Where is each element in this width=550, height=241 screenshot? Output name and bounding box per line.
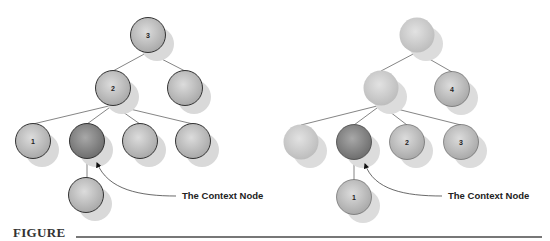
right-callout-arrow-icon — [365, 164, 442, 196]
left-node-level4-a — [69, 178, 104, 213]
left-node-level3-c — [123, 124, 158, 159]
figure-rule-divider — [76, 236, 542, 238]
node-label: 2 — [405, 139, 409, 146]
left-node-level3-a: 1 — [16, 124, 51, 159]
left-node-level3-d — [176, 124, 211, 159]
node-label: 4 — [450, 86, 454, 93]
left-context-node — [70, 124, 105, 159]
context-node-diagrams: 3 2 1 The Conte — [0, 0, 550, 241]
left-callout-label: The Context Node — [182, 190, 263, 201]
right-node-level3-a — [284, 125, 319, 160]
node-label: 1 — [31, 138, 35, 145]
right-node-level2-b: 4 — [435, 72, 470, 107]
right-node-level4-a: 1 — [337, 180, 372, 215]
right-node-level2-a — [364, 71, 399, 106]
figure-caption: FIGURE — [13, 226, 65, 239]
node-label: 3 — [146, 32, 150, 39]
left-node-level2-b — [168, 71, 203, 106]
right-callout-label: The Context Node — [448, 190, 529, 201]
left-diagram: 3 2 1 The Conte — [16, 18, 264, 222]
right-diagram: 4 2 3 1 The Context Node — [284, 18, 530, 224]
right-node-root — [400, 18, 435, 53]
node-label: 1 — [352, 194, 356, 201]
left-node-root: 3 — [131, 18, 166, 53]
left-node-level2-a: 2 — [96, 71, 131, 106]
node-label: 3 — [459, 139, 463, 146]
right-node-level3-c: 2 — [390, 125, 425, 160]
right-context-node — [337, 125, 372, 160]
node-label: 2 — [111, 85, 115, 92]
left-callout-arrow-icon — [97, 163, 176, 196]
right-node-level3-d: 3 — [444, 125, 479, 160]
